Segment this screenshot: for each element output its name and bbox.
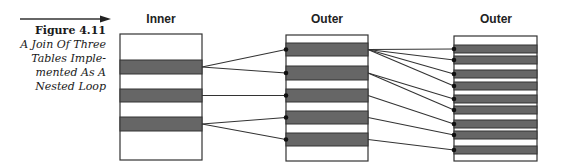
connection-line <box>368 73 454 99</box>
table-row <box>454 131 537 139</box>
connection-line <box>202 124 286 140</box>
tables <box>120 34 537 161</box>
connection-dot <box>284 47 289 52</box>
table-row <box>286 111 368 124</box>
connection-dot <box>452 108 457 113</box>
connection-dot <box>452 84 457 89</box>
table-row <box>120 89 202 102</box>
connection-dot <box>452 58 457 63</box>
connection-dot <box>452 148 457 153</box>
connection-dot <box>452 133 457 138</box>
connection-line <box>202 118 286 125</box>
table-label-inner: Inner <box>146 12 176 26</box>
connection-line <box>202 67 286 73</box>
connection-dot <box>284 137 289 142</box>
table-inner <box>120 34 202 160</box>
table-label-outer-2: Outer <box>480 12 512 26</box>
table-row <box>120 60 202 74</box>
connection-line <box>368 73 454 110</box>
table-outer1 <box>286 35 368 161</box>
table-row <box>454 56 537 64</box>
connection-line <box>202 50 286 68</box>
table-row <box>286 43 368 56</box>
connection-dot <box>284 93 289 98</box>
connection-line <box>368 50 454 75</box>
table-row <box>454 146 537 154</box>
pointer-arrow <box>20 16 111 23</box>
table-row <box>454 70 537 78</box>
connection-dot <box>452 47 457 52</box>
table-row <box>286 89 368 102</box>
table-row <box>120 117 202 131</box>
connection-dot <box>284 71 289 76</box>
connection-dot <box>452 72 457 77</box>
table-row <box>286 66 368 80</box>
table-row <box>454 120 537 128</box>
connection-dot <box>452 97 457 102</box>
table-label-outer-1: Outer <box>311 12 343 26</box>
connection-dot <box>452 122 457 127</box>
connection-line <box>368 140 454 151</box>
table-row <box>454 45 537 53</box>
table-labels: Inner Outer Outer <box>146 12 512 26</box>
table-row <box>454 106 537 114</box>
table-row <box>454 95 537 103</box>
table-row <box>286 133 368 146</box>
connection-dot <box>284 115 289 120</box>
nested-loop-join-diagram: Inner Outer Outer <box>0 0 564 167</box>
table-row <box>454 82 537 90</box>
connection-line <box>368 49 454 50</box>
table-outer2 <box>454 36 537 161</box>
